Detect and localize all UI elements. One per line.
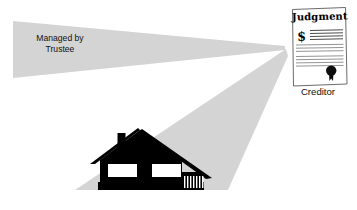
trustee-beam <box>13 21 285 78</box>
house-window <box>152 164 181 177</box>
diagram-canvas: Managed by Trustee Judgment $ Creditor <box>0 0 357 210</box>
judgment-document <box>293 8 348 87</box>
diagram-graphic <box>0 0 357 210</box>
document-paper <box>293 8 348 87</box>
house-window <box>108 164 137 177</box>
